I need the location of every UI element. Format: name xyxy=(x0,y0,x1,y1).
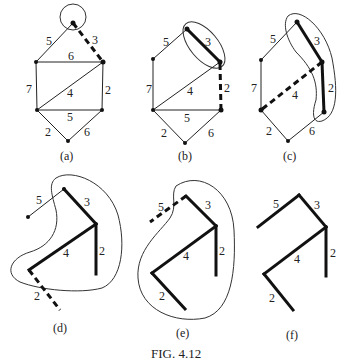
edge-label: 2 xyxy=(224,81,230,95)
edge-label: 6 xyxy=(84,125,90,139)
edge-label: 2 xyxy=(105,83,111,97)
vertex xyxy=(259,58,263,62)
edge-label: 2 xyxy=(34,289,40,303)
vertex xyxy=(66,139,70,143)
edge-label: 3 xyxy=(92,33,98,47)
vertex xyxy=(35,108,39,112)
tree-edge xyxy=(152,273,185,309)
edge-label: 5 xyxy=(158,200,164,214)
edge-label: 3 xyxy=(205,35,211,49)
vertex xyxy=(218,60,223,65)
vertex xyxy=(62,187,66,191)
edge-label: 3 xyxy=(314,34,320,48)
edge-label: 2 xyxy=(219,244,225,258)
tree-edge xyxy=(64,189,96,224)
vertex xyxy=(100,108,104,112)
edge-label: 5 xyxy=(36,193,42,207)
edge-label: 6 xyxy=(309,124,315,138)
panel-d: 5 3 4 2 2 (d) xyxy=(11,175,122,335)
edge xyxy=(37,110,68,141)
edge-label: 5 xyxy=(67,110,73,124)
tree-edge xyxy=(186,196,216,226)
panel-caption: (a) xyxy=(60,149,73,163)
vertex xyxy=(219,108,224,113)
edge-label: 4 xyxy=(63,246,69,260)
edge-label: 5 xyxy=(270,32,276,46)
vertex xyxy=(71,21,76,26)
vertex xyxy=(322,110,327,115)
edge xyxy=(288,112,324,141)
vertex xyxy=(34,60,38,64)
vertex xyxy=(183,141,187,145)
panel-f: 5 3 2 4 2 (f) xyxy=(258,195,336,342)
candidate-edge xyxy=(220,64,221,110)
edge xyxy=(261,22,297,60)
edge-label: 7 xyxy=(251,81,257,95)
figure-title: FIG. 4.12 xyxy=(151,346,201,361)
panel-e: 5 3 4 2 2 (e) xyxy=(138,180,235,340)
candidate-edge xyxy=(261,62,322,110)
panel-b: 5 3 7 4 2 5 2 6 (b) xyxy=(146,15,233,163)
figure-canvas: 5 3 6 7 4 2 5 2 6 (a) 5 3 7 4 2 5 2 6 (b… xyxy=(0,0,349,363)
edge xyxy=(102,62,103,110)
panel-c: 5 3 7 4 2 2 6 (c) xyxy=(251,14,336,163)
vertex xyxy=(259,108,264,113)
edge-label: 4 xyxy=(183,249,189,263)
vertex xyxy=(295,20,300,25)
edge-label: 5 xyxy=(46,34,52,48)
tree-edge xyxy=(322,62,324,112)
edge-label: 5 xyxy=(273,197,279,211)
panel-caption: (c) xyxy=(283,149,296,163)
selected-set-outline xyxy=(60,4,86,30)
panel-caption: (e) xyxy=(176,326,189,340)
edge-label: 2 xyxy=(269,291,275,305)
edge-label: 2 xyxy=(266,124,272,138)
edge xyxy=(28,189,64,217)
edge xyxy=(153,110,185,143)
edge-label: 4 xyxy=(294,252,300,266)
edge-label: 7 xyxy=(146,82,152,96)
edge-label: 2 xyxy=(328,81,334,95)
vertex xyxy=(185,27,190,32)
edge-label: 4 xyxy=(292,88,298,102)
edge-label: 6 xyxy=(68,49,74,63)
vertex xyxy=(320,60,325,65)
edge-label: 4 xyxy=(187,84,193,98)
edge-label: 4 xyxy=(67,86,73,100)
edge-label: 3 xyxy=(314,198,320,212)
edge-label: 7 xyxy=(26,82,32,96)
edge xyxy=(153,29,187,59)
vertex xyxy=(26,215,30,219)
edge-label: 2 xyxy=(45,125,51,139)
panel-caption: (b) xyxy=(178,149,192,163)
edge xyxy=(185,110,221,143)
panel-caption: (d) xyxy=(53,321,67,335)
candidate-edge xyxy=(150,196,186,222)
tree-edge xyxy=(187,29,220,62)
edge-label: 2 xyxy=(159,289,165,303)
edge xyxy=(36,62,37,110)
edge-label: 2 xyxy=(99,244,105,258)
selected-set-outline xyxy=(285,14,335,122)
vertex xyxy=(101,60,106,65)
panel-a: 5 3 6 7 4 2 5 2 6 (a) xyxy=(26,4,111,163)
tree-edge xyxy=(299,195,326,227)
vertex xyxy=(151,108,155,112)
edge-label: 5 xyxy=(163,35,169,49)
vertex xyxy=(151,57,155,61)
tree-edge xyxy=(264,227,326,274)
edge-label: 6 xyxy=(208,126,214,140)
edge-label: 3 xyxy=(84,195,90,209)
edge-label: 2 xyxy=(161,126,167,140)
edge-label: 2 xyxy=(330,246,336,260)
edge-label: 3 xyxy=(205,198,211,212)
vertex xyxy=(286,139,290,143)
panel-caption: (f) xyxy=(286,328,298,342)
edge-label: 5 xyxy=(184,111,190,125)
